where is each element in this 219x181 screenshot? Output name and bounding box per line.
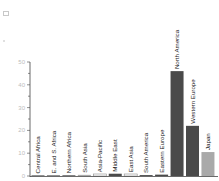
bar-chart: 01020304050 Central AfricaE. and S. Afri…	[0, 0, 219, 181]
category-label: Western Europe	[189, 79, 196, 124]
y-tick-label: 0	[22, 173, 26, 179]
category-label: South Asia	[81, 143, 88, 173]
bar	[171, 71, 184, 176]
category-label: North America	[173, 29, 180, 69]
bar	[109, 174, 122, 176]
bar	[155, 175, 168, 176]
y-axis: 01020304050	[18, 59, 30, 179]
category-labels: Central AfricaE. and S. AfricaNorthern A…	[34, 29, 211, 173]
bar	[93, 174, 106, 176]
y-tick-label: 30	[18, 105, 25, 111]
category-label: E. and S. Africa	[50, 130, 57, 173]
bars	[32, 71, 215, 176]
y-tick-label: 50	[18, 59, 25, 65]
bar	[201, 152, 214, 176]
bar	[186, 126, 199, 176]
bar	[47, 175, 60, 176]
bar	[32, 175, 45, 176]
category-label: Asia-Pacific	[96, 140, 103, 172]
y-tick-label: 20	[18, 127, 25, 133]
category-label: Eastern Europe	[158, 129, 165, 173]
bar	[140, 175, 153, 176]
category-label: Central Africa	[34, 136, 41, 174]
category-label: South America	[142, 132, 149, 173]
bar	[78, 175, 91, 176]
y-tick-label: 40	[18, 82, 25, 88]
bar	[124, 174, 137, 176]
category-label: Northern Africa	[65, 131, 72, 173]
category-label: Japan	[204, 133, 211, 150]
category-label: Middle East	[111, 139, 118, 172]
category-label: East Asia	[127, 146, 134, 172]
y-tick-label: 10	[18, 150, 25, 156]
bar	[62, 175, 75, 176]
